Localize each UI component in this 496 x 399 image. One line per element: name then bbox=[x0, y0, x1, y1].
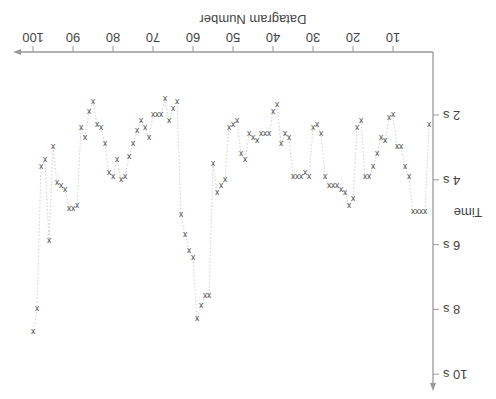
data-point-x-marker: x bbox=[346, 201, 351, 210]
data-point-x-marker: x bbox=[406, 172, 411, 181]
data-point-x-marker: x bbox=[202, 291, 207, 300]
data-point-x-marker: x bbox=[130, 139, 135, 148]
x-tick-label: 10 bbox=[386, 30, 400, 45]
x-tick-label: 30 bbox=[306, 30, 320, 45]
data-point-x-marker: x bbox=[114, 155, 119, 164]
x-tick-label: 70 bbox=[146, 30, 160, 45]
data-point-x-marker: x bbox=[54, 178, 59, 187]
data-point-x-marker: x bbox=[94, 120, 99, 129]
y-tick-label: 6 s bbox=[443, 238, 461, 253]
data-point-x-marker: x bbox=[394, 142, 399, 151]
data-point-x-marker: x bbox=[354, 123, 359, 132]
data-point-x-marker: x bbox=[374, 149, 379, 158]
data-point-x-marker: x bbox=[386, 113, 391, 122]
x-tick-label: 90 bbox=[66, 30, 80, 45]
chart-canvas: xxxxxxxxxxxxxxxxxxxxxxxxxxxxxxxxxxxxxxxx… bbox=[0, 0, 496, 399]
data-point-x-marker: x bbox=[178, 210, 183, 219]
data-point-x-marker: x bbox=[246, 129, 251, 138]
data-point-x-marker: x bbox=[194, 314, 199, 323]
data-point-x-marker: x bbox=[362, 172, 367, 181]
y-tick-label: 8 s bbox=[443, 302, 461, 317]
data-point-x-marker: x bbox=[370, 162, 375, 171]
data-point-x-marker: x bbox=[82, 133, 87, 142]
x-tick-label: 100 bbox=[22, 30, 44, 45]
data-point-x-marker: x bbox=[66, 204, 71, 213]
data-point-x-marker: x bbox=[90, 97, 95, 106]
data-point-x-marker: x bbox=[46, 236, 51, 245]
data-point-x-marker: x bbox=[86, 107, 91, 116]
data-point-x-marker: x bbox=[402, 162, 407, 171]
x-tick-label: 80 bbox=[106, 30, 120, 45]
y-tick-label: 2 s bbox=[443, 108, 461, 123]
data-point-x-marker: x bbox=[182, 230, 187, 239]
y-tick-label: 10 s bbox=[443, 367, 468, 382]
data-point-x-marker: x bbox=[326, 181, 331, 190]
data-point-x-marker: x bbox=[282, 129, 287, 138]
data-point-x-marker: x bbox=[186, 246, 191, 255]
x-axis-label: Datagram Number bbox=[199, 12, 307, 27]
data-point-x-marker: x bbox=[378, 133, 383, 142]
data-point-x-marker: x bbox=[170, 104, 175, 113]
x-tick-label: 50 bbox=[226, 30, 240, 45]
data-point-x-marker: x bbox=[34, 304, 39, 313]
x-tick-label: 40 bbox=[266, 30, 280, 45]
data-point-x-marker: x bbox=[146, 133, 151, 142]
data-point-x-marker: x bbox=[166, 116, 171, 125]
data-point-x-marker: x bbox=[138, 116, 143, 125]
data-point-x-marker: x bbox=[198, 301, 203, 310]
data-point-x-marker: x bbox=[214, 188, 219, 197]
axes bbox=[13, 46, 439, 391]
data-point-x-marker: x bbox=[38, 162, 43, 171]
data-point-x-marker: x bbox=[290, 172, 295, 181]
connector-line bbox=[33, 99, 429, 332]
data-point-x-marker: x bbox=[134, 126, 139, 135]
data-point-x-marker: x bbox=[126, 152, 131, 161]
data-point-x-marker: x bbox=[278, 139, 283, 148]
y-tick-label: 4 s bbox=[443, 173, 461, 188]
data-point-x-marker: x bbox=[410, 207, 415, 216]
data-point-x-marker: x bbox=[150, 110, 155, 119]
data-point-x-marker: x bbox=[322, 172, 327, 181]
data-point-x-marker: x bbox=[118, 175, 123, 184]
data-point-x-marker: x bbox=[226, 123, 231, 132]
data-point-x-marker: x bbox=[426, 120, 431, 129]
chart: xxxxxxxxxxxxxxxxxxxxxxxxxxxxxxxxxxxxxxxx… bbox=[0, 0, 496, 399]
data-point-x-marker: x bbox=[50, 142, 55, 151]
data-point-x-marker: x bbox=[78, 123, 83, 132]
data-point-x-marker: x bbox=[106, 168, 111, 177]
data-point-x-marker: x bbox=[102, 139, 107, 148]
data-point-x-marker: x bbox=[310, 123, 315, 132]
data-point-x-marker: x bbox=[318, 129, 323, 138]
data-point-x-marker: x bbox=[210, 159, 215, 168]
data-points: xxxxxxxxxxxxxxxxxxxxxxxxxxxxxxxxxxxxxxxx… bbox=[30, 94, 431, 336]
y-axis-arrow-icon bbox=[430, 383, 436, 391]
x-tick-label: 20 bbox=[346, 30, 360, 45]
data-point-x-marker: x bbox=[270, 107, 275, 116]
x-tick-label: 60 bbox=[186, 30, 200, 45]
axis-labels: 1020304050607080901002 s4 s6 s8 s10 sDat… bbox=[22, 12, 482, 382]
data-point-x-marker: x bbox=[162, 94, 167, 103]
data-point-x-marker: x bbox=[30, 327, 35, 336]
x-axis-arrow-icon bbox=[13, 49, 21, 55]
y-axis-label: Time bbox=[454, 205, 482, 220]
data-point-x-marker: x bbox=[238, 149, 243, 158]
